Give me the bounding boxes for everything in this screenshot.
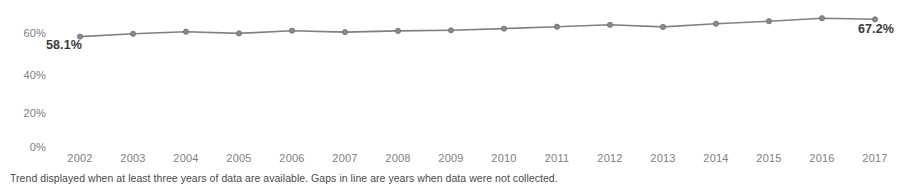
data-point-2016 [819, 16, 824, 21]
x-tick-label-2007: 2007 [319, 152, 371, 164]
y-tick-label-40: 40% [0, 69, 46, 81]
start-value-annotation: 58.1% [46, 38, 82, 52]
data-point-2006 [289, 28, 294, 33]
data-point-2007 [342, 29, 347, 34]
x-tick-label-2008: 2008 [372, 152, 424, 164]
x-tick-label-2017: 2017 [849, 152, 901, 164]
data-point-2012 [607, 22, 612, 27]
data-point-2010 [501, 26, 506, 31]
plot-area [0, 0, 918, 194]
line-chart: 60% 40% 20% 0% 58.1% 67.2% 2002 2003 20 [0, 0, 918, 194]
x-tick-label-2006: 2006 [266, 152, 318, 164]
end-value-annotation: 67.2% [858, 22, 894, 36]
x-tick-label-2002: 2002 [54, 152, 106, 164]
x-tick-label-2016: 2016 [796, 152, 848, 164]
x-tick-label-2004: 2004 [160, 152, 212, 164]
y-tick-label-20: 20% [0, 107, 46, 119]
data-point-2004 [183, 29, 188, 34]
data-point-2015 [766, 19, 771, 24]
data-point-2005 [236, 31, 241, 36]
data-point-2009 [448, 28, 453, 33]
chart-footnote: Trend displayed when at least three year… [10, 172, 558, 184]
x-tick-label-2005: 2005 [213, 152, 265, 164]
data-point-2013 [660, 24, 665, 29]
x-tick-label-2013: 2013 [637, 152, 689, 164]
y-tick-label-0: 0% [0, 141, 46, 153]
x-tick-label-2003: 2003 [107, 152, 159, 164]
x-tick-label-2012: 2012 [584, 152, 636, 164]
y-tick-label-60: 60% [0, 27, 46, 39]
x-tick-label-2009: 2009 [425, 152, 477, 164]
data-point-markers [77, 16, 877, 40]
data-point-2008 [395, 28, 400, 33]
trend-line [80, 18, 875, 36]
x-tick-label-2014: 2014 [690, 152, 742, 164]
x-tick-label-2015: 2015 [743, 152, 795, 164]
x-tick-label-2011: 2011 [531, 152, 583, 164]
x-tick-label-2010: 2010 [478, 152, 530, 164]
data-point-2003 [130, 31, 135, 36]
data-point-2014 [713, 21, 718, 26]
data-point-2011 [554, 24, 559, 29]
